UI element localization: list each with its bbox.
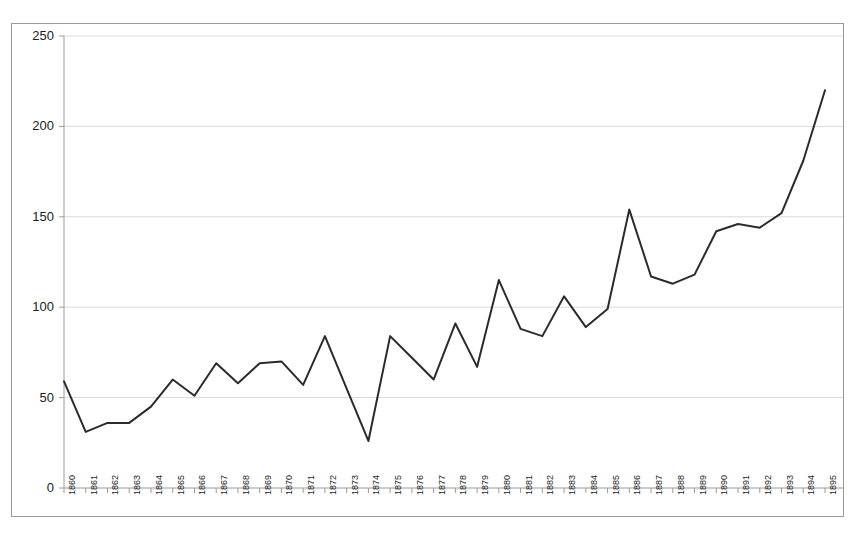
x-axis-tick-label: 1869 (264, 475, 273, 495)
x-axis-tick-label: 1876 (416, 475, 425, 495)
x-axis-tick-label: 1881 (525, 475, 534, 495)
x-axis-tick-label: 1893 (786, 475, 795, 495)
x-axis-tick-label: 1860 (68, 475, 77, 495)
y-axis-tick-label: 50 (10, 391, 54, 404)
x-axis-tick-label: 1875 (394, 475, 403, 495)
x-axis-tick-label: 1868 (242, 475, 251, 495)
x-axis-tick-label: 1883 (568, 475, 577, 495)
x-axis-tick-label: 1862 (111, 475, 120, 495)
x-axis-tick-label: 1864 (155, 475, 164, 495)
x-axis-tick-label: 1894 (807, 475, 816, 495)
x-axis-tick-label: 1885 (612, 475, 621, 495)
chart-container: 050100150200250 186018611862186318641865… (0, 0, 857, 546)
x-axis-tick-label: 1892 (764, 475, 773, 495)
data-series-line (64, 90, 825, 441)
x-axis-tick-label: 1861 (90, 475, 99, 495)
y-axis-tick-label: 200 (10, 119, 54, 132)
x-axis-tick-label: 1880 (503, 475, 512, 495)
x-axis-tick-label: 1863 (133, 475, 142, 495)
x-axis-tick-label: 1895 (829, 475, 838, 495)
x-axis-tick-label: 1889 (699, 475, 708, 495)
x-axis-tick-label: 1878 (459, 475, 468, 495)
y-axis-ticks (59, 36, 64, 488)
x-axis-tick-label: 1882 (546, 475, 555, 495)
y-axis-tick-label: 0 (10, 481, 54, 494)
x-axis-tick-label: 1874 (372, 475, 381, 495)
y-axis-tick-label: 250 (10, 29, 54, 42)
x-axis-tick-label: 1873 (351, 475, 360, 495)
x-axis-tick-label: 1886 (633, 475, 642, 495)
x-axis-tick-label: 1870 (285, 475, 294, 495)
x-axis-tick-label: 1872 (329, 475, 338, 495)
gridlines (64, 36, 843, 398)
x-axis-tick-label: 1866 (198, 475, 207, 495)
x-axis-tick-label: 1865 (177, 475, 186, 495)
x-axis-tick-label: 1871 (307, 475, 316, 495)
y-axis-tick-label: 100 (10, 300, 54, 313)
x-axis-tick-label: 1877 (438, 475, 447, 495)
x-axis-tick-label: 1888 (677, 475, 686, 495)
x-axis-tick-label: 1879 (481, 475, 490, 495)
x-axis-tick-label: 1890 (720, 475, 729, 495)
x-axis-tick-label: 1884 (590, 475, 599, 495)
chart-canvas (0, 0, 857, 546)
y-axis-tick-label: 150 (10, 210, 54, 223)
x-axis-tick-label: 1867 (220, 475, 229, 495)
x-axis-tick-label: 1887 (655, 475, 664, 495)
x-axis-tick-label: 1891 (742, 475, 751, 495)
